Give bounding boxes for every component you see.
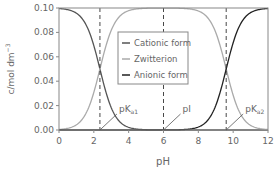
- legend-label: Cationic form: [134, 38, 191, 48]
- x-tick-label: 6: [161, 136, 167, 146]
- y-tick-label: 0.06: [34, 52, 54, 62]
- annotation-label: pKa1: [119, 104, 138, 115]
- annotation-leader: [164, 114, 181, 130]
- x-tick-label: 8: [195, 136, 201, 146]
- legend-label: Anionic form: [134, 70, 188, 80]
- y-tick-label: 0.10: [34, 3, 54, 13]
- legend-label: Zwitterion: [134, 54, 177, 64]
- chart: 0246810120.000.020.040.060.080.10 Cation…: [0, 0, 278, 174]
- y-tick-label: 0.04: [34, 76, 54, 86]
- y-tick-label: 0.08: [34, 27, 54, 37]
- y-tick-label: 0.02: [34, 101, 54, 111]
- x-tick-label: 4: [126, 136, 132, 146]
- x-tick-label: 10: [227, 136, 239, 146]
- x-axis-label: pH: [156, 156, 170, 167]
- x-tick-label: 2: [91, 136, 97, 146]
- annotation-label: pI: [183, 104, 191, 114]
- x-tick-label: 0: [56, 136, 62, 146]
- y-tick-label: 0.00: [34, 125, 54, 135]
- annotation-leader: [226, 114, 243, 130]
- legend: Cationic formZwitterionAnionic form: [118, 32, 191, 84]
- annotation-leader: [100, 114, 117, 130]
- y-axis-label: c/mol dm−3: [4, 43, 16, 94]
- annotation-label: pKa2: [245, 104, 264, 115]
- x-tick-label: 12: [262, 136, 273, 146]
